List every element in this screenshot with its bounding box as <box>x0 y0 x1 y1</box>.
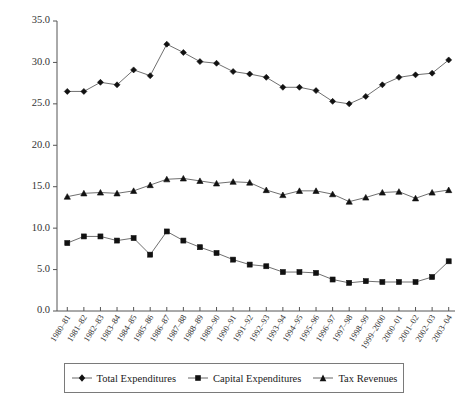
series-tax-revenues <box>64 175 452 204</box>
legend-item-total-expenditures: Total Expenditures <box>71 372 176 384</box>
data-point-marker <box>164 229 169 234</box>
y-tick-label: 10.0 <box>32 222 50 233</box>
data-point-marker <box>363 279 368 284</box>
data-point-marker <box>263 74 269 80</box>
data-point-marker <box>297 270 302 275</box>
data-point-marker <box>430 275 435 280</box>
data-point-marker <box>380 280 385 285</box>
data-point-marker <box>396 74 402 80</box>
data-point-marker <box>147 73 153 79</box>
data-point-marker <box>214 60 220 66</box>
series-capital-expenditures <box>65 229 451 285</box>
data-point-marker <box>413 280 418 285</box>
data-point-marker <box>97 79 103 85</box>
data-point-marker <box>181 238 186 243</box>
line-chart-plot: 0.05.010.015.020.025.030.035.0 1980–8119… <box>0 0 464 411</box>
diamond-marker-icon <box>71 372 93 384</box>
square-marker-icon <box>187 372 209 384</box>
data-series-group <box>64 41 452 285</box>
data-point-marker <box>180 49 186 55</box>
figure-container: 0.05.010.015.020.025.030.035.0 1980–8119… <box>0 0 464 411</box>
series-line <box>67 44 448 104</box>
data-point-marker <box>98 234 103 239</box>
data-point-marker <box>247 71 253 77</box>
data-point-marker <box>131 236 136 241</box>
data-point-marker <box>230 69 236 75</box>
series-line <box>67 178 448 201</box>
triangle-marker-icon <box>312 372 334 384</box>
y-tick-label: 0.0 <box>37 304 50 315</box>
y-tick-label: 25.0 <box>32 97 50 108</box>
data-point-marker <box>280 270 285 275</box>
data-point-marker <box>347 280 352 285</box>
data-point-marker <box>214 251 219 256</box>
data-point-marker <box>264 264 269 269</box>
data-point-marker <box>313 88 319 94</box>
series-total-expenditures <box>64 41 451 107</box>
y-tick-label: 15.0 <box>32 180 50 191</box>
data-point-marker <box>81 234 86 239</box>
series-line <box>67 231 448 282</box>
data-point-marker <box>412 195 418 201</box>
legend-item-capital-expenditures: Capital Expenditures <box>187 372 301 384</box>
data-point-marker <box>379 82 385 88</box>
data-point-marker <box>363 194 369 200</box>
data-point-marker <box>131 188 137 194</box>
data-point-marker <box>314 270 319 275</box>
legend-item-tax-revenues: Tax Revenues <box>312 372 397 384</box>
data-point-marker <box>446 259 451 264</box>
y-tick-label: 35.0 <box>32 14 50 25</box>
y-axis-ticks: 0.05.010.015.020.025.030.035.0 <box>32 14 57 315</box>
data-point-marker <box>446 187 452 193</box>
legend-label-total-expenditures: Total Expenditures <box>97 373 176 384</box>
data-point-marker <box>231 257 236 262</box>
data-point-marker <box>396 280 401 285</box>
data-point-marker <box>413 72 419 78</box>
data-point-marker <box>330 277 335 282</box>
data-point-marker <box>263 187 269 193</box>
data-point-marker <box>330 98 336 104</box>
data-point-marker <box>164 41 170 47</box>
data-point-marker <box>147 182 153 188</box>
data-point-marker <box>280 84 286 90</box>
data-point-marker <box>197 59 203 65</box>
chart-legend: Total Expenditures Capital Expenditures … <box>64 363 404 393</box>
data-point-marker <box>197 245 202 250</box>
legend-label-tax-revenues: Tax Revenues <box>338 373 397 384</box>
y-tick-label: 20.0 <box>32 139 50 150</box>
legend-label-capital-expenditures: Capital Expenditures <box>213 373 301 384</box>
data-point-marker <box>363 93 369 99</box>
x-axis-ticks: 1980–811981–821982–831983–841984–851985–… <box>48 307 454 351</box>
data-point-marker <box>296 84 302 90</box>
data-point-marker <box>65 241 70 246</box>
data-point-marker <box>346 101 352 107</box>
x-axis: 1980–811981–821982–831983–841984–851985–… <box>48 307 455 351</box>
data-point-marker <box>247 262 252 267</box>
data-point-marker <box>115 238 120 243</box>
data-point-marker <box>81 88 87 94</box>
data-point-marker <box>148 252 153 257</box>
y-tick-label: 5.0 <box>37 263 50 274</box>
y-tick-label: 30.0 <box>32 56 50 67</box>
y-axis: 0.05.010.015.020.025.030.035.0 <box>32 14 57 315</box>
data-point-marker <box>64 88 70 94</box>
